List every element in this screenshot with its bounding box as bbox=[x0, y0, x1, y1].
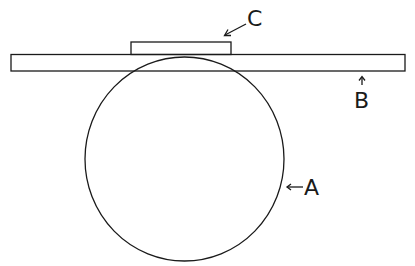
circle-a bbox=[85, 57, 284, 261]
block-c bbox=[131, 42, 231, 55]
arrow-c-icon bbox=[225, 24, 247, 36]
bar-b bbox=[11, 55, 405, 72]
arrow-b-icon bbox=[359, 77, 365, 86]
label-b: B bbox=[354, 90, 369, 112]
diagram-canvas bbox=[0, 0, 415, 266]
label-a: A bbox=[304, 177, 319, 199]
arrow-a-icon bbox=[287, 184, 303, 190]
label-c: C bbox=[247, 8, 262, 30]
